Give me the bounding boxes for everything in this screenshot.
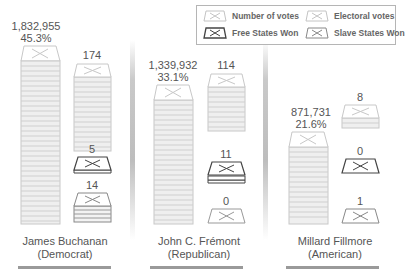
free-states-label: 5 [72,143,112,155]
slave-states-label: 1 [340,195,380,207]
slave-states-label: 0 [206,195,246,207]
legend-item-free-states-won: Free States Won [203,27,298,39]
column-underline [286,266,379,269]
popular-votes-label: 1,339,932 33.1% [142,59,204,83]
candidate-name: John C. Frémont (Republican) [139,235,259,261]
ballot-light-icon [305,10,329,22]
slave-states-stack [207,208,247,225]
free-states-label: 0 [340,145,380,157]
legend: Number of votes Electoral votes Free Sta… [196,5,396,45]
free-states-stack [73,156,113,176]
free-states-label: 11 [206,148,246,160]
ballot-dark-icon [203,27,227,39]
legend-item-number-of-votes: Number of votes [203,10,299,22]
popular-votes-stack [153,84,195,225]
candidate-name: James Buchanan (Democrat) [5,235,125,261]
popular-votes-label: 871,731 21.6% [285,106,337,130]
column-underline [18,266,111,269]
slave-states-label: 14 [72,179,112,191]
electoral-votes-label: 174 [72,49,112,61]
column-divider [263,40,268,240]
slave-states-stack [73,192,113,224]
legend-item-slave-states-won: Slave States Won [305,27,405,39]
ballot-medium-icon [305,27,329,39]
electoral-votes-stack [73,63,113,153]
electoral-votes-stack [341,104,381,130]
popular-votes-label: 1,832,955 45.3% [0,20,72,44]
free-states-stack [341,158,381,175]
popular-votes-stack [288,131,330,225]
electoral-votes-label: 114 [206,59,246,71]
candidate-name: Millard Fillmore (American) [275,235,395,261]
slave-states-stack [341,208,381,225]
electoral-votes-label: 8 [340,91,380,103]
electoral-votes-stack [207,73,247,133]
ballot-light-icon [203,10,227,22]
column-underline [150,266,243,269]
column-divider [130,40,135,240]
legend-item-electoral-votes: Electoral votes [305,10,394,22]
free-states-stack [207,161,247,185]
popular-votes-stack [20,45,62,225]
